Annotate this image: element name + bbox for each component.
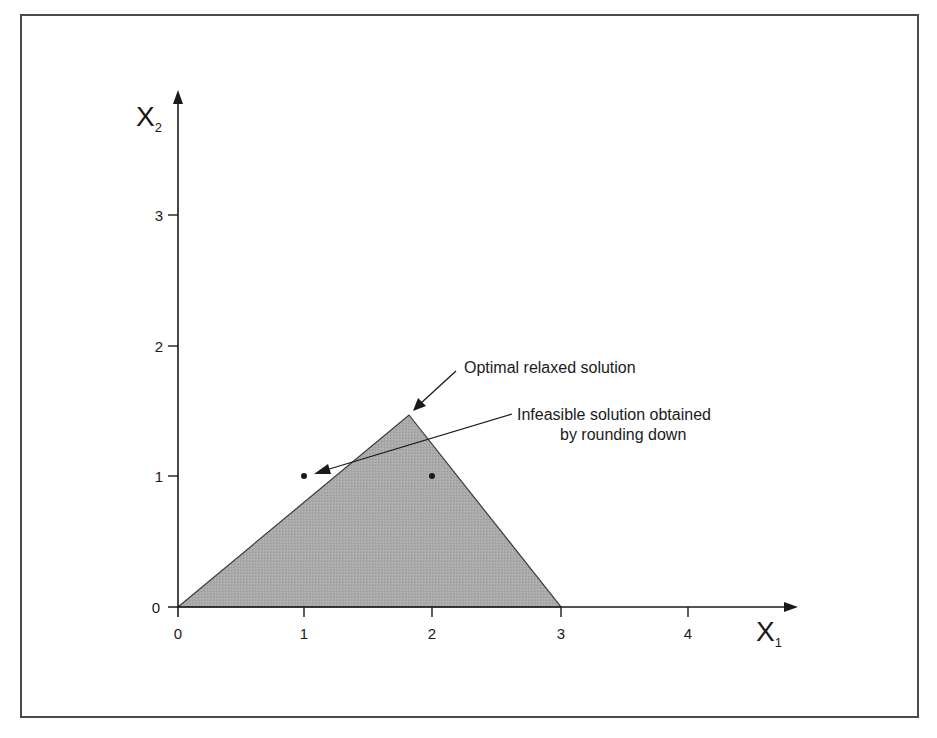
feasible-region [178, 415, 561, 607]
x-tick-0: 0 [174, 625, 182, 642]
y-axis-label: X2 [136, 101, 162, 135]
infeasible-arrow-icon [314, 464, 331, 474]
infeasible-label-line2: by rounding down [560, 426, 686, 443]
y-tick-0: 0 [152, 599, 160, 616]
optimal-arrow-line [420, 371, 456, 404]
y-axis-arrow-icon [173, 90, 183, 104]
y-tick-3: 3 [155, 207, 163, 224]
lp-diagram: 0 1 2 3 0 1 2 3 4 X2 X1 Optimal relaxed … [0, 0, 937, 738]
infeasible-label-line1: Infeasible solution obtained [517, 406, 711, 423]
x-tick-3: 3 [557, 625, 565, 642]
y-tick-1: 1 [155, 468, 163, 485]
point-1-1 [301, 473, 307, 479]
x-tick-2: 2 [428, 625, 436, 642]
x-axis-label: X1 [756, 616, 782, 650]
x-tick-1: 1 [300, 625, 308, 642]
point-2-1 [429, 473, 435, 479]
optimal-label: Optimal relaxed solution [464, 359, 636, 376]
x-axis-arrow-icon [784, 602, 798, 612]
x-tick-4: 4 [684, 625, 692, 642]
y-tick-2: 2 [155, 338, 163, 355]
